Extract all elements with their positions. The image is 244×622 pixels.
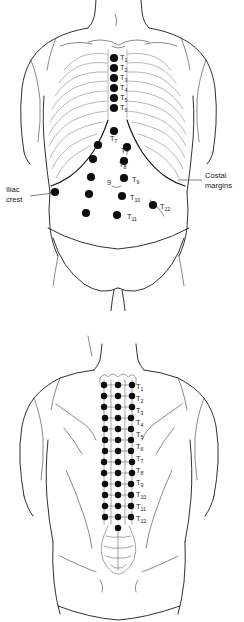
posterior-dot	[115, 415, 121, 421]
anterior-sternal-dot	[110, 84, 118, 92]
anterior-vertebral-label: T2	[120, 63, 127, 73]
anterior-vertebral-label: T9	[132, 175, 139, 185]
iliac-crest-label-line1: Iliac	[6, 185, 20, 194]
posterior-dot	[101, 393, 107, 399]
posterior-dot	[102, 426, 108, 432]
anterior-sternal-dot	[110, 64, 118, 72]
posterior-dot	[129, 393, 135, 399]
posterior-dot	[128, 437, 134, 443]
anterior-sternal-label-group: T1T2T3T4T5T6	[120, 53, 127, 113]
posterior-dot	[128, 448, 134, 454]
posterior-vertebral-label: T11	[136, 502, 146, 512]
anterior-vertebral-label: T3	[120, 73, 127, 83]
posterior-vertebral-label: T4	[136, 418, 143, 428]
posterior-vertebral-label: T6	[136, 442, 143, 452]
posterior-dot	[115, 404, 121, 410]
posterior-vertebral-label-group: T1T2T3T4T5T6T7T8T9T10T11T12	[136, 382, 146, 524]
anterior-vertebral-label: T1	[120, 53, 127, 63]
anterior-sternal-dot-group	[110, 54, 118, 112]
costal-margins-label-line2: margins	[205, 181, 232, 190]
anterior-vertebral-label: 9	[107, 178, 111, 187]
anatomical-figure: T1T2T3T4T5T6 T7T7T89T9T10T11T12 Costal m…	[0, 0, 244, 622]
posterior-vertebral-label: T2	[136, 394, 143, 404]
anterior-abdominal-dot	[149, 201, 157, 209]
anterior-abdominal-dot	[113, 211, 121, 219]
posterior-dot	[129, 459, 135, 465]
posterior-dot	[129, 404, 135, 410]
posterior-vertebral-label: T10	[136, 490, 146, 500]
anterior-vertebral-label: T11	[127, 212, 137, 222]
posterior-dot	[115, 426, 121, 432]
anterior-sternal-dot	[110, 94, 118, 102]
anterior-abdominal-dot	[82, 209, 90, 217]
iliac-crest-label-line2: crest	[6, 195, 23, 204]
anterior-abdominal-dot	[94, 141, 102, 149]
posterior-vertebral-label: T3	[136, 406, 143, 416]
posterior-vertebral-label: T12	[136, 514, 146, 524]
posterior-dot	[101, 459, 107, 465]
posterior-vertebral-label: T5	[136, 430, 143, 440]
posterior-dot	[102, 448, 108, 454]
posterior-dot	[102, 503, 108, 509]
anterior-vertebral-label: T7	[110, 134, 117, 144]
anterior-sternal-dot	[110, 74, 118, 82]
posterior-vertebral-label: T9	[136, 478, 143, 488]
posterior-dot	[101, 382, 107, 388]
posterior-dot	[115, 503, 121, 509]
posterior-vertebral-label: T8	[136, 466, 143, 476]
posterior-view-panel: T1T2T3T4T5T6T7T8T9T10T11T12	[0, 311, 244, 622]
posterior-dot	[115, 470, 121, 476]
anterior-sternal-dot	[110, 54, 118, 62]
anterior-vertebral-label: T6	[120, 103, 127, 113]
posterior-dot-group	[101, 382, 135, 531]
anterior-abdominal-dot	[51, 188, 59, 196]
anterior-abdominal-dot	[85, 190, 93, 198]
posterior-dot	[102, 492, 108, 498]
posterior-dot	[115, 437, 121, 443]
posterior-dot	[115, 448, 121, 454]
anterior-abdominal-dot	[118, 192, 126, 200]
posterior-dot	[115, 393, 121, 399]
anterior-sternal-dot	[110, 104, 118, 112]
posterior-dot	[115, 514, 121, 520]
posterior-dot	[128, 503, 134, 509]
posterior-dot	[102, 415, 108, 421]
posterior-dot	[115, 481, 121, 487]
posterior-dot	[115, 382, 121, 388]
anterior-vertebral-label: T5	[120, 93, 127, 103]
posterior-dot	[102, 481, 108, 487]
anterior-abdominal-dot-group	[51, 127, 157, 219]
posterior-vertebral-label: T7	[136, 454, 143, 464]
posterior-dot	[128, 492, 134, 498]
anterior-vertebral-label: T4	[120, 83, 127, 93]
posterior-vertebral-label: T1	[136, 382, 143, 392]
anterior-abdominal-dot	[89, 155, 97, 163]
anterior-abdominal-dot	[87, 173, 95, 181]
posterior-dot	[128, 481, 134, 487]
posterior-dot	[129, 382, 135, 388]
anterior-vertebral-label: T10	[130, 193, 140, 203]
posterior-dot	[115, 525, 121, 531]
anterior-view-panel: T1T2T3T4T5T6 T7T7T89T9T10T11T12 Costal m…	[0, 0, 244, 311]
posterior-dot	[128, 426, 134, 432]
anterior-vertebral-label: T12	[160, 202, 170, 212]
posterior-dot	[128, 415, 134, 421]
posterior-dot	[102, 437, 108, 443]
posterior-dot	[115, 492, 121, 498]
posterior-dot	[101, 470, 107, 476]
posterior-dot	[129, 470, 135, 476]
costal-margins-label-line1: Costal	[205, 171, 227, 180]
posterior-dot	[102, 514, 108, 520]
posterior-dot	[115, 459, 121, 465]
posterior-dot	[101, 404, 107, 410]
anterior-abdominal-dot	[120, 174, 128, 182]
posterior-dot	[128, 514, 134, 520]
